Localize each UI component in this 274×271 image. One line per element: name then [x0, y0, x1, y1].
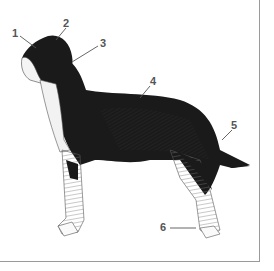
callout-1: 1: [12, 28, 18, 39]
callout-3: 3: [100, 38, 106, 49]
callout-2: 2: [63, 18, 69, 29]
dog-illustration: [0, 0, 274, 271]
callout-4: 4: [150, 76, 156, 87]
callout-5: 5: [231, 120, 237, 131]
callout-6: 6: [160, 222, 166, 233]
